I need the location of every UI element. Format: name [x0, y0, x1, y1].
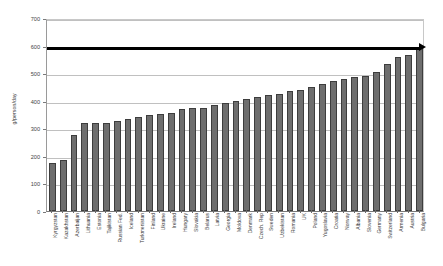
y-axis-tick-label: 200: [22, 154, 40, 160]
gridline: [47, 20, 423, 21]
x-axis-tick-label: Armenia: [399, 213, 404, 232]
x-axis-tick-label: Kazakhstan: [64, 213, 69, 239]
bar: [135, 117, 142, 211]
y-axis-tick-label: 300: [22, 126, 40, 132]
bar: [211, 105, 218, 211]
bar: [233, 101, 240, 211]
threshold-arrow-line: [47, 47, 421, 50]
y-axis-tick-label: 100: [22, 181, 40, 187]
bar: [362, 76, 369, 211]
bar: [60, 160, 67, 211]
x-axis-tick-label: Norway: [345, 213, 350, 230]
x-axis-tick-label: Croatia: [334, 213, 339, 229]
x-axis-tick-label: Denmark: [248, 213, 253, 233]
x-axis-tick-label: Lithuania: [86, 213, 91, 233]
bar: [254, 97, 261, 211]
x-axis-tick-label: Hungary: [183, 213, 188, 232]
bar: [276, 94, 283, 211]
bar: [103, 123, 110, 211]
bar: [157, 114, 164, 211]
x-axis-tick-label: Ireland: [172, 213, 177, 228]
x-axis-tick-label: Ukraine: [161, 213, 166, 230]
x-axis-tick-label: Czech. Rep: [259, 213, 264, 239]
x-axis-labels: KyrgyzstanKazakhstanAzerbaijanLithuaniaE…: [46, 213, 424, 266]
bar: [200, 108, 207, 211]
bar: [373, 72, 380, 211]
bar: [243, 99, 250, 211]
threshold-arrowhead-icon: [419, 43, 426, 51]
plot-area: [46, 19, 424, 212]
bar: [179, 109, 186, 211]
bar: [92, 123, 99, 211]
y-axis-tick-label: 500: [22, 71, 40, 77]
x-axis-tick-label: Uzbekistan: [280, 213, 285, 238]
x-axis-tick-label: Switzerland: [388, 213, 393, 239]
bar: [351, 77, 358, 211]
bar: [189, 108, 196, 211]
x-axis-tick-label: Finland: [151, 213, 156, 229]
bar: [114, 121, 121, 211]
bar: [81, 123, 88, 211]
x-axis-tick-label: Georgia: [226, 213, 231, 231]
x-axis-tick-label: Latvia: [215, 213, 220, 226]
bar: [168, 113, 175, 211]
x-axis-tick-label: Yugoslavia: [323, 213, 328, 237]
bar: [330, 81, 337, 211]
bar: [297, 90, 304, 211]
y-axis-title: g/person/day: [11, 69, 17, 149]
y-axis-tick-label: 600: [22, 44, 40, 50]
x-axis-tick-label: Tajikistan: [107, 213, 112, 234]
x-axis-tick-label: Sweden: [269, 213, 274, 231]
bar: [125, 119, 132, 211]
bar: [222, 103, 229, 211]
bar: [49, 163, 56, 211]
y-axis-tick-label: 700: [22, 16, 40, 22]
bar: [308, 87, 315, 211]
x-axis-tick-label: Estonia: [97, 213, 102, 230]
x-axis-tick-label: Moldova: [237, 213, 242, 232]
x-axis-tick-label: Romania: [291, 213, 296, 233]
bar: [341, 79, 348, 211]
x-axis-tick-label: Austria: [410, 213, 415, 229]
bar: [416, 47, 423, 211]
bar: [71, 135, 78, 211]
bar: [265, 95, 272, 211]
x-axis-tick-label: UK: [302, 213, 307, 220]
x-axis-tick-label: Kyrgyzstan: [53, 213, 58, 238]
x-axis-tick-label: Iceland: [129, 213, 134, 229]
x-axis-tick-label: Slovakia: [194, 213, 199, 232]
bar-chart: g/person/day 0100200300400500600700 Kyrg…: [0, 0, 443, 266]
y-axis-tick-label: 400: [22, 99, 40, 105]
x-axis-tick-label: Albania: [356, 213, 361, 230]
x-axis-tick-label: Belarus: [205, 213, 210, 230]
x-axis-tick-label: Poland: [313, 213, 318, 229]
y-axis-tick-label: 0: [22, 209, 40, 215]
bar: [384, 64, 391, 212]
x-axis-tick-label: Azerbaijan: [75, 213, 80, 237]
bar: [405, 55, 412, 211]
x-axis-tick-label: Germany: [377, 213, 382, 234]
x-axis-tick-label: Russian Fed.: [118, 213, 123, 242]
x-axis-tick-label: Turkmenistan: [140, 213, 145, 243]
bar: [395, 57, 402, 211]
bar: [319, 84, 326, 211]
bar: [287, 91, 294, 211]
x-axis-tick-label: Slovenia: [367, 213, 372, 232]
x-axis-tick-label: Bulgaria: [421, 213, 426, 231]
bar: [146, 115, 153, 212]
